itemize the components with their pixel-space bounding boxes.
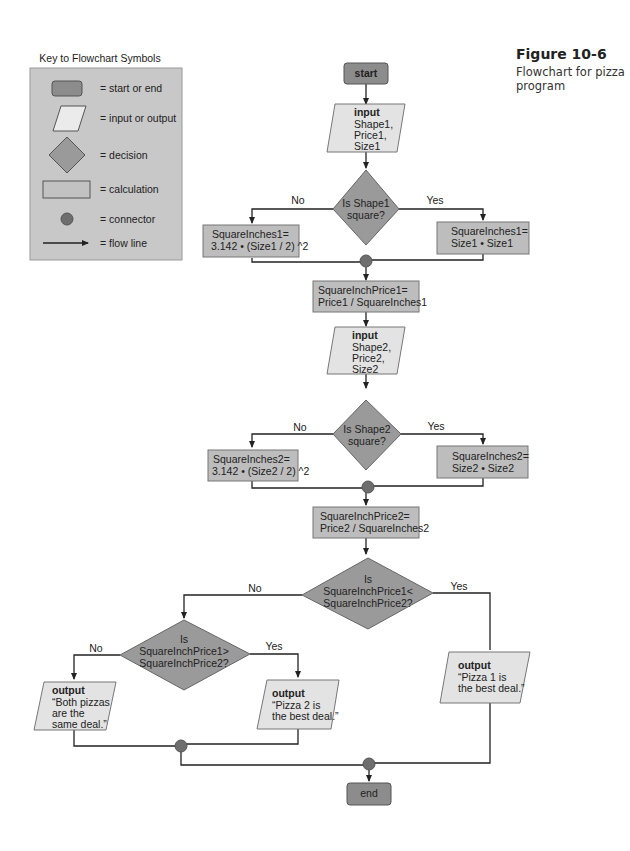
svg-text:Is Shape2: Is Shape2 (343, 423, 390, 435)
key-label-flow-line: = flow line (100, 237, 147, 249)
key-label-connector: = connector (100, 213, 156, 225)
key-label-decision: = decision (100, 149, 148, 161)
node-decision-shape2: Is Shape2 square? No Yes (293, 400, 444, 470)
svg-text:SquareInchPrice1<: SquareInchPrice1< (323, 585, 413, 597)
svg-text:input: input (352, 329, 378, 341)
node-input-2: input Shape2, Price2, Size2 (327, 327, 405, 375)
key-label-io: = input or output (100, 112, 176, 124)
svg-text:SquareInches2=: SquareInches2= (213, 453, 290, 465)
svg-text:the best deal.”: the best deal.” (458, 682, 525, 694)
svg-text:SquareInches2=: SquareInches2= (452, 450, 529, 462)
svg-text:same deal.”: same deal.” (52, 718, 107, 730)
node-end: end (347, 783, 391, 805)
flowchart-canvas: Key to Flowchart Symbols = start or end … (0, 0, 630, 851)
symbol-key: Key to Flowchart Symbols = start or end … (30, 52, 182, 260)
svg-text:Price1 / SquareInches1: Price1 / SquareInches1 (318, 296, 427, 308)
node-calc-square-inch-price1: SquareInchPrice1= Price1 / SquareInches1 (313, 281, 427, 312)
node-calc-square-inch-price2: SquareInchPrice2= Price2 / SquareInches2 (313, 507, 429, 538)
svg-text:SquareInches1=: SquareInches1= (451, 225, 528, 237)
svg-text:SquareInchPrice1=: SquareInchPrice1= (318, 284, 408, 296)
svg-text:Size2 • Size2: Size2 • Size2 (452, 462, 514, 474)
svg-text:SquareInchPrice2=: SquareInchPrice2= (320, 510, 410, 522)
node-start: start (344, 63, 388, 84)
node-input-1: input Shape1, Price1, Size1 (327, 104, 405, 152)
node-calc-square-inches2-circle: SquareInches2= 3.142 • (Size2 / 2) ^2 (208, 450, 309, 481)
connector-symbol-icon (61, 213, 73, 225)
svg-text:input: input (354, 106, 380, 118)
terminal-symbol-icon (52, 81, 82, 96)
svg-text:Size1: Size1 (354, 140, 380, 152)
svg-text:SquareInches1=: SquareInches1= (212, 228, 289, 240)
node-output-pizza1: output “Pizza 1 is the best deal.” (440, 652, 530, 703)
svg-text:SquareInchPrice1>: SquareInchPrice1> (139, 645, 229, 657)
svg-text:Is: Is (364, 573, 372, 585)
key-label-calculation: = calculation (100, 183, 159, 195)
svg-text:Size2: Size2 (352, 363, 378, 375)
label-yes: Yes (427, 420, 444, 432)
svg-text:Price2 / SquareInches2: Price2 / SquareInches2 (320, 522, 429, 534)
node-calc-square-inches2-square: SquareInches2= Size2 • Size2 (437, 446, 529, 478)
node-calc-square-inches1-square: SquareInches1= Size1 • Size1 (437, 222, 529, 254)
label-yes: Yes (450, 580, 467, 592)
label-no: No (89, 642, 103, 654)
key-label-terminal: = start or end (100, 82, 162, 94)
svg-text:start: start (355, 67, 378, 79)
svg-text:SquareInchPrice2?: SquareInchPrice2? (323, 597, 412, 609)
svg-text:Is: Is (180, 633, 188, 645)
svg-text:Size1 • Size1: Size1 • Size1 (451, 237, 513, 249)
node-output-pizza2: output “Pizza 2 is the best deal.” (257, 680, 339, 729)
connector-2-icon (362, 481, 374, 493)
key-title: Key to Flowchart Symbols (39, 52, 160, 64)
connector-3-icon (175, 740, 187, 752)
label-no: No (293, 421, 307, 433)
connector-1-icon (360, 255, 372, 267)
connector-4-icon (363, 758, 375, 770)
svg-text:output: output (272, 687, 305, 699)
label-yes: Yes (265, 640, 282, 652)
key-panel (30, 68, 182, 260)
svg-text:square?: square? (347, 209, 385, 221)
svg-text:the best deal.”: the best deal.” (272, 710, 339, 722)
label-yes: Yes (426, 194, 443, 206)
node-calc-square-inches1-circle: SquareInches1= 3.142 • (Size1 / 2) ^2 (203, 225, 308, 257)
svg-text:output: output (52, 684, 85, 696)
node-output-same-deal: output “Both pizzas are the same deal.” (34, 682, 116, 730)
svg-text:end: end (360, 787, 378, 799)
rectangle-symbol-icon (43, 181, 90, 198)
label-no: No (248, 582, 262, 594)
node-decision-shape1: Is Shape1 square? No Yes (291, 170, 443, 245)
svg-text:Is Shape1: Is Shape1 (342, 197, 389, 209)
svg-text:3.142 • (Size1 / 2) ^2: 3.142 • (Size1 / 2) ^2 (211, 240, 308, 252)
svg-text:3.142 • (Size2 / 2) ^2: 3.142 • (Size2 / 2) ^2 (212, 465, 309, 477)
svg-text:SquareInchPrice2?: SquareInchPrice2? (139, 657, 228, 669)
svg-text:output: output (458, 659, 491, 671)
label-no: No (291, 194, 305, 206)
svg-text:square?: square? (348, 435, 386, 447)
